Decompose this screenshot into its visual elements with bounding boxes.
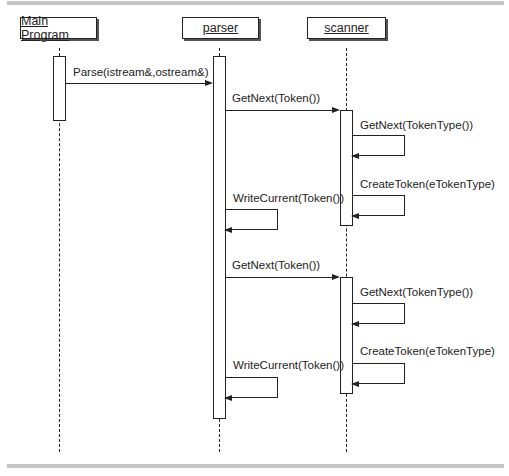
self-call-arrow	[226, 209, 278, 230]
object-main-program: Main Program	[20, 17, 97, 39]
message-arrow	[66, 83, 211, 84]
bottom-border	[7, 464, 504, 468]
message-label: Parse(istream&,ostream&)	[73, 66, 208, 78]
arrowhead-icon	[332, 107, 340, 113]
activation-scanner-2	[340, 277, 353, 394]
message-label: GetNext(TokenType())	[360, 286, 473, 298]
top-border	[7, 1, 504, 5]
arrowhead-icon	[224, 227, 232, 233]
arrowhead-icon	[332, 274, 340, 280]
arrowhead-icon	[224, 395, 232, 401]
self-call-arrow	[353, 195, 405, 216]
activation-scanner-1	[340, 110, 353, 226]
self-call-arrow	[353, 135, 405, 156]
arrowhead-icon	[351, 213, 359, 219]
message-label: CreateToken(eTokenType)	[360, 345, 495, 357]
arrowhead-icon	[351, 381, 359, 387]
message-label: WriteCurrent(Token())	[233, 359, 344, 371]
activation-parser	[213, 56, 226, 419]
message-label: CreateToken(eTokenType)	[360, 178, 495, 190]
self-call-arrow	[353, 363, 405, 384]
message-arrow	[226, 110, 338, 111]
message-label: GetNext(TokenType())	[360, 119, 473, 131]
message-label: GetNext(Token())	[232, 92, 320, 104]
self-call-arrow	[226, 377, 278, 398]
self-call-arrow	[353, 303, 405, 324]
message-label: GetNext(Token())	[232, 259, 320, 271]
object-scanner: scanner	[307, 17, 386, 39]
arrowhead-icon	[351, 153, 359, 159]
activation-main-program	[53, 56, 66, 121]
message-label: WriteCurrent(Token())	[233, 192, 344, 204]
object-parser: parser	[182, 17, 259, 39]
message-arrow	[226, 277, 338, 278]
arrowhead-icon	[205, 80, 213, 86]
arrowhead-icon	[351, 321, 359, 327]
